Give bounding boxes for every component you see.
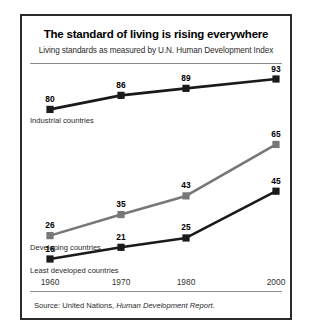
x-axis-tick-label: 1960 — [41, 277, 60, 287]
source-report-title: Human Development Report — [116, 301, 212, 310]
line-chart-svg: 80868993Industrial countries26354365Deve… — [22, 16, 294, 322]
source-note: Source: United Nations, Human Developmen… — [34, 301, 215, 310]
data-point-marker — [46, 255, 53, 262]
data-point-label: 89 — [181, 73, 191, 83]
data-point-label: 25 — [181, 222, 191, 232]
data-point-marker — [117, 92, 124, 99]
data-point-label: 16 — [45, 244, 55, 254]
series-0: 80868993Industrial countries — [30, 64, 281, 126]
x-axis-tick-label: 1970 — [112, 277, 131, 287]
chart-card: The standard of living is rising everywh… — [20, 14, 292, 320]
data-point-label: 65 — [271, 129, 281, 139]
source-suffix: . — [213, 301, 215, 310]
data-point-label: 35 — [116, 199, 126, 209]
data-point-label: 86 — [116, 80, 126, 90]
series-line — [50, 79, 276, 109]
data-point-marker — [117, 211, 124, 218]
x-axis: 1960197019802000 — [41, 277, 286, 287]
data-point-label: 26 — [45, 220, 55, 230]
data-point-marker — [182, 192, 189, 199]
footer-divider — [30, 291, 282, 292]
plot-area: 80868993Industrial countries26354365Deve… — [22, 16, 294, 322]
data-point-marker — [46, 106, 53, 113]
data-point-label: 43 — [181, 180, 191, 190]
data-point-label: 45 — [271, 176, 281, 186]
series-label: Least developed countries — [30, 266, 119, 275]
x-axis-tick-label: 2000 — [267, 277, 286, 287]
data-point-label: 93 — [271, 64, 281, 74]
data-point-label: 80 — [45, 94, 55, 104]
series-1: 26354365Developing countries — [30, 129, 281, 252]
data-point-label: 21 — [116, 232, 126, 242]
series-label: Industrial countries — [30, 116, 94, 125]
series-2: 16212545Least developed countries — [30, 176, 281, 275]
data-point-marker — [272, 141, 279, 148]
series-label: Developing countries — [30, 243, 101, 252]
data-point-marker — [182, 85, 189, 92]
series-line — [50, 144, 276, 235]
data-point-marker — [182, 234, 189, 241]
x-axis-tick-label: 1980 — [177, 277, 196, 287]
data-point-marker — [272, 75, 279, 82]
data-point-marker — [46, 232, 53, 239]
source-prefix: Source: United Nations, — [34, 301, 114, 310]
data-point-marker — [272, 188, 279, 195]
data-point-marker — [117, 244, 124, 251]
